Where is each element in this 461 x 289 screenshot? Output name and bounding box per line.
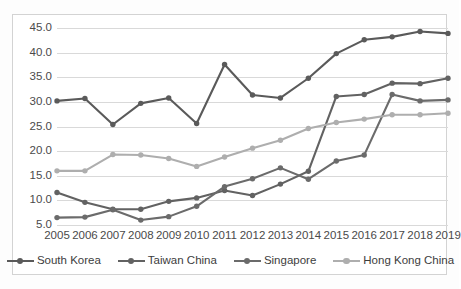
x-tick-label: 2011 xyxy=(212,230,237,242)
x-tick-label: 2009 xyxy=(156,230,182,242)
data-point xyxy=(334,94,339,99)
y-axis-tick-labels: 5.010.015.020.025.030.035.040.045.0 xyxy=(13,28,52,225)
data-point xyxy=(166,95,171,100)
data-point xyxy=(278,165,283,170)
data-point xyxy=(138,101,143,106)
data-point xyxy=(334,120,339,125)
x-tick-label: 2010 xyxy=(184,230,210,242)
data-point xyxy=(362,37,367,42)
data-point xyxy=(389,80,394,85)
x-tick-label: 2017 xyxy=(379,230,405,242)
data-point xyxy=(306,169,311,174)
data-point xyxy=(278,138,283,143)
data-point xyxy=(334,158,339,163)
data-point xyxy=(54,190,59,195)
legend-label: Hong Kong China xyxy=(363,255,454,267)
y-tick-label: 10.0 xyxy=(30,195,52,207)
legend-item-south-korea[interactable]: South Korea xyxy=(7,255,101,267)
x-tick-label: 2005 xyxy=(44,230,70,242)
y-tick-label: 40.0 xyxy=(30,47,52,59)
legend-swatch-icon xyxy=(7,256,34,266)
data-point xyxy=(54,168,59,173)
data-point xyxy=(389,92,394,97)
data-point xyxy=(278,181,283,186)
data-point xyxy=(138,217,143,222)
data-point xyxy=(82,168,87,173)
x-tick-label: 2018 xyxy=(407,230,433,242)
series-line xyxy=(57,78,448,209)
series-line xyxy=(57,31,448,124)
data-point xyxy=(54,98,59,103)
data-point xyxy=(54,215,59,220)
data-point xyxy=(445,111,450,116)
series-line xyxy=(57,94,448,220)
data-point xyxy=(250,145,255,150)
y-tick-label: 45.0 xyxy=(30,22,52,34)
data-point xyxy=(362,152,367,157)
data-point xyxy=(362,116,367,121)
data-point xyxy=(445,31,450,36)
data-point xyxy=(82,214,87,219)
x-tick-label: 2015 xyxy=(323,230,349,242)
data-point xyxy=(166,214,171,219)
legend-swatch-icon xyxy=(118,256,145,266)
legend-swatch-icon xyxy=(333,256,360,266)
data-point xyxy=(166,156,171,161)
y-tick-label: 20.0 xyxy=(30,145,52,157)
plot-area xyxy=(57,28,448,225)
legend-item-singapore[interactable]: Singapore xyxy=(234,255,316,267)
legend-label: Singapore xyxy=(264,255,316,267)
data-point xyxy=(82,200,87,205)
data-point xyxy=(166,199,171,204)
data-point xyxy=(306,76,311,81)
data-point xyxy=(194,195,199,200)
data-point xyxy=(417,81,422,86)
x-tick-label: 2008 xyxy=(128,230,154,242)
data-point xyxy=(362,92,367,97)
data-point xyxy=(110,207,115,212)
data-point xyxy=(250,176,255,181)
data-point xyxy=(222,154,227,159)
data-point xyxy=(194,164,199,169)
x-tick-label: 2012 xyxy=(240,230,266,242)
y-tick-label: 15.0 xyxy=(30,170,52,182)
series-singapore xyxy=(54,92,450,223)
x-tick-label: 2013 xyxy=(268,230,294,242)
x-tick-label: 2019 xyxy=(435,230,461,242)
legend-label: Taiwan China xyxy=(148,255,217,267)
data-point xyxy=(194,204,199,209)
chart-frame: 5.010.015.020.025.030.035.040.045.0 2005… xyxy=(12,14,447,275)
series-lines xyxy=(57,28,448,225)
x-tick-label: 2006 xyxy=(72,230,98,242)
data-point xyxy=(389,34,394,39)
data-point xyxy=(306,126,311,131)
x-tick-label: 2007 xyxy=(100,230,126,242)
y-tick-label: 35.0 xyxy=(30,72,52,84)
data-point xyxy=(445,76,450,81)
series-hong-kong-china xyxy=(54,111,450,174)
legend-label: South Korea xyxy=(37,255,101,267)
data-point xyxy=(445,97,450,102)
legend-item-hong-kong-china[interactable]: Hong Kong China xyxy=(333,255,454,267)
gridline xyxy=(57,225,448,226)
data-point xyxy=(250,92,255,97)
legend-swatch-icon xyxy=(234,256,261,266)
data-point xyxy=(222,62,227,67)
y-tick-label: 30.0 xyxy=(30,96,52,108)
data-point xyxy=(417,112,422,117)
data-point xyxy=(194,121,199,126)
data-point xyxy=(417,98,422,103)
data-point xyxy=(138,152,143,157)
data-point xyxy=(334,51,339,56)
x-tick-label: 2016 xyxy=(351,230,377,242)
y-tick-label: 25.0 xyxy=(30,121,52,133)
x-axis-tick-labels: 2005200620072008200920102011201220132014… xyxy=(57,228,448,248)
legend-item-taiwan-china[interactable]: Taiwan China xyxy=(118,255,217,267)
data-point xyxy=(110,152,115,157)
data-point xyxy=(389,112,394,117)
data-point xyxy=(138,207,143,212)
data-point xyxy=(222,184,227,189)
data-point xyxy=(250,193,255,198)
data-point xyxy=(417,29,422,34)
